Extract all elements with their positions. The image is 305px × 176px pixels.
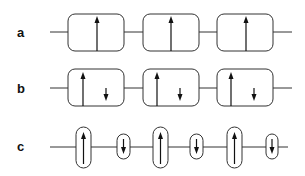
row-label-c: c (17, 139, 24, 154)
row-label-b: b (17, 81, 25, 96)
small-spin-pill (190, 134, 203, 159)
small-spin-pill (266, 134, 278, 159)
unit-cell (68, 14, 124, 51)
unit-cell (143, 69, 199, 106)
row-c: c (17, 127, 288, 168)
row-a: a (17, 14, 292, 51)
large-spin-pill (76, 127, 91, 168)
large-spin-pill (227, 127, 242, 168)
large-spin-pill (153, 127, 168, 168)
row-b: b (17, 69, 292, 106)
unit-cell (217, 14, 273, 51)
unit-cell (143, 14, 199, 51)
unit-cell (217, 69, 273, 106)
small-spin-pill (117, 134, 130, 159)
spin-chain-diagram: a b (0, 0, 305, 176)
row-label-a: a (17, 25, 25, 40)
unit-cell (68, 69, 124, 106)
